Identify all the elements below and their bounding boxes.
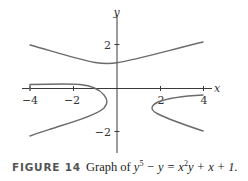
x-tick-label-4: 4 <box>201 94 208 107</box>
caption-rhs-rest: y + x + 1. <box>188 160 238 174</box>
x-tick-label-neg4: −4 <box>22 94 38 107</box>
caption-lhs-rest: − y = <box>143 160 178 174</box>
y-tick-label-neg2: −2 <box>95 126 111 139</box>
graph: −4 −2 2 4 2 −2 x y <box>0 0 248 160</box>
y-axis-label: y <box>113 6 121 19</box>
x-tick-label-neg2: −2 <box>64 94 80 107</box>
x-axis-label: x <box>214 82 221 95</box>
figure-caption: FIGURE 14Graph of y5 − y = x2y + x + 1. <box>12 160 238 175</box>
caption-prefix: Graph of <box>86 160 134 174</box>
y-tick-label-2: 2 <box>104 39 111 52</box>
figure-label: FIGURE 14 <box>12 161 81 173</box>
